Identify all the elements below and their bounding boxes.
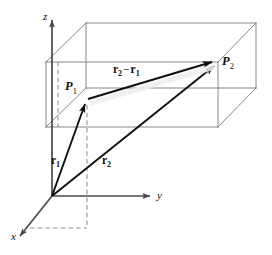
coordinate-axes	[20, 20, 150, 236]
construction-dashed-lines	[30, 62, 155, 228]
vector-r2-minus-r1	[88, 62, 212, 99]
box-edge-depth-bottom-right	[218, 88, 256, 127]
vector-label-r1-subscript: 1	[56, 160, 60, 169]
bounding-box	[46, 23, 256, 127]
point-label-p2: P2	[222, 55, 234, 70]
vector-label-r2: r2	[102, 155, 111, 169]
vector-label-r2-minus-r1: r2−r1	[113, 64, 140, 78]
axis-label-x: x	[11, 231, 16, 242]
point-label-p1-subscript: 1	[73, 86, 77, 96]
vector-label-diff-second-subscript: 1	[136, 69, 140, 78]
point-label-p1-letter: P	[65, 79, 73, 93]
vector-label-r1: r1	[51, 155, 60, 169]
point-label-p2-letter: P	[222, 54, 230, 68]
vector-label-r2-subscript: 2	[107, 160, 111, 169]
axis-label-y: y	[157, 190, 162, 201]
axis-x	[20, 196, 52, 236]
diagram-canvas	[0, 0, 272, 255]
point-label-p2-subscript: 2	[230, 61, 234, 71]
axis-label-z: z	[43, 11, 47, 22]
vector-label-diff-operator: −	[122, 63, 131, 75]
vector-shadow-band	[90, 64, 214, 106]
vector-diagram-figure: z y x P1 P2 r1 r2 r2−r1	[0, 0, 272, 255]
point-label-p1: P1	[65, 80, 77, 95]
